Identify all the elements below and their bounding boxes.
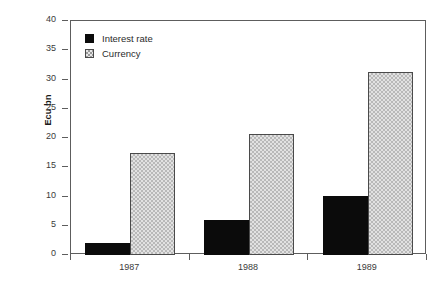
x-tick-mark — [70, 254, 71, 260]
plot-area: Interest rate Currency — [70, 20, 426, 254]
x-tick-mark — [189, 254, 190, 260]
y-tick-mark — [62, 108, 68, 109]
x-tick-mark — [307, 254, 308, 260]
y-tick-label: 20 — [46, 131, 56, 141]
y-tick-mark — [62, 79, 68, 80]
y-tick-mark — [62, 254, 68, 255]
y-tick-label: 40 — [46, 14, 56, 24]
bar-1989-currency — [368, 72, 413, 255]
legend-entry-currency: Currency — [85, 46, 153, 61]
legend-label-interest-rate: Interest rate — [102, 33, 153, 44]
y-tick-label: 35 — [46, 43, 56, 53]
y-tick-mark — [62, 49, 68, 50]
y-tick-mark — [62, 196, 68, 197]
y-tick-label: 15 — [46, 160, 56, 170]
y-tick-label: 30 — [46, 73, 56, 83]
x-tick-label-1988: 1988 — [218, 262, 278, 272]
legend-entry-interest-rate: Interest rate — [85, 31, 153, 46]
bar-1987-currency — [130, 153, 175, 255]
y-tick-mark — [62, 166, 68, 167]
y-tick-mark — [62, 137, 68, 138]
legend-label-currency: Currency — [102, 48, 141, 59]
y-tick-mark — [62, 225, 68, 226]
bar-1988-interest-rate — [204, 220, 249, 255]
legend-swatch-currency-icon — [85, 49, 94, 58]
bar-1988-currency — [249, 134, 294, 255]
x-tick-label-1987: 1987 — [99, 262, 159, 272]
y-tick-label: 5 — [51, 219, 56, 229]
legend-swatch-interest-rate-icon — [85, 34, 94, 43]
bar-chart: Ecu bn 0510152025303540 Interest rate Cu… — [0, 0, 442, 281]
bar-1989-interest-rate — [323, 196, 368, 255]
x-tick-mark — [426, 254, 427, 260]
y-tick-mark — [62, 20, 68, 21]
legend: Interest rate Currency — [85, 31, 153, 61]
y-tick-label: 10 — [46, 190, 56, 200]
x-tick-label-1989: 1989 — [337, 262, 397, 272]
y-tick-label: 25 — [46, 102, 56, 112]
bar-1987-interest-rate — [85, 243, 130, 255]
y-tick-label: 0 — [51, 248, 56, 258]
